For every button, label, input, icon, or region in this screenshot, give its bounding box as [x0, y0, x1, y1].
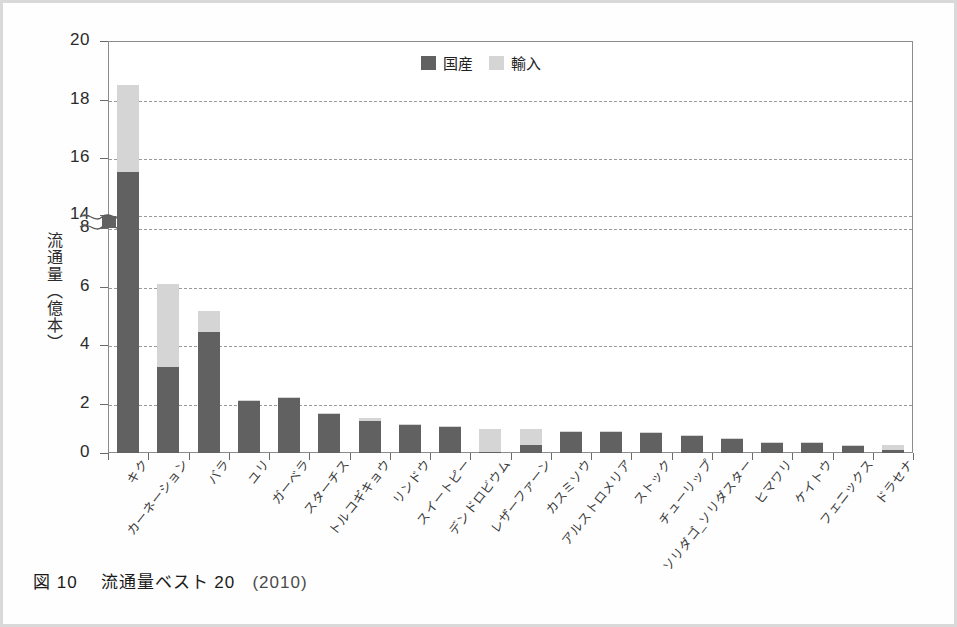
bar-デンドロビウム — [479, 429, 501, 453]
bar-segment-imported — [479, 429, 501, 452]
x-axis-label: キク — [121, 455, 152, 487]
bar-segment-domestic — [238, 401, 260, 453]
bar-ガーベラ — [278, 397, 300, 453]
y-tick-label-0: 0 — [46, 442, 90, 462]
y-tick-label-2: 2 — [46, 393, 90, 413]
bar-キク — [117, 85, 139, 454]
bar-フェニックス — [842, 445, 864, 453]
bar-チューリップ — [681, 436, 703, 453]
x-axis-label: ドラセナ — [870, 455, 917, 508]
bar-segment-imported — [117, 85, 139, 172]
bar-segment-imported — [520, 429, 542, 445]
bar-リンドウ — [399, 425, 421, 453]
bar-segment-domestic — [359, 421, 381, 453]
caption-number: 図 10 — [33, 573, 78, 592]
bar-segment-domestic — [439, 427, 461, 453]
bar-segment-domestic — [198, 332, 220, 453]
bars-layer — [108, 41, 913, 453]
bar-segment-domestic — [600, 432, 622, 453]
caption-year: (2010) — [252, 573, 307, 592]
bar-ケイトウ — [801, 443, 823, 453]
bar-カーネーション — [157, 284, 179, 453]
bar-segment-domestic — [278, 398, 300, 453]
bar-segment-domestic — [520, 445, 542, 453]
y-tick-label-16: 16 — [46, 147, 90, 167]
bar-segment-domestic — [761, 443, 783, 453]
bar-segment-domestic — [721, 439, 743, 453]
bar-segment-imported — [198, 311, 220, 332]
x-axis-label: ユリ — [242, 455, 273, 487]
bar-segment-imported — [157, 284, 179, 367]
y-tick-mark — [100, 345, 108, 346]
bar-スターチス — [318, 413, 340, 453]
bar-アルストロメリア — [600, 432, 622, 453]
bar-segment-domestic — [640, 433, 662, 453]
bar-ソリダゴ_ソリダスター — [721, 439, 743, 453]
bar-バラ — [198, 311, 220, 453]
y-tick-label-18: 18 — [46, 89, 90, 109]
y-tick-mark — [100, 100, 108, 101]
bar-segment-domestic — [318, 414, 340, 453]
x-axis-labels: キクカーネーションバラユリガーベラスターチストルコギキョウリンドウスイートピーデ… — [108, 455, 938, 575]
y-axis-title: 流通量（億本） — [36, 232, 62, 351]
caption-title: 流通量ベスト 20 — [101, 573, 236, 592]
bar-segment-domestic — [801, 443, 823, 453]
y-tick-mark — [100, 41, 108, 42]
bar-ドラセナ — [882, 445, 904, 453]
bar-スイートピー — [439, 427, 461, 453]
y-tick-mark — [100, 158, 108, 159]
figure-chart: 20 18 16 14 8 6 4 2 0 流通量（億本） 国産 輸入 キクカー… — [0, 0, 957, 627]
y-tick-mark — [100, 453, 108, 454]
bar-ユリ — [238, 400, 260, 453]
y-tick-label-20: 20 — [46, 30, 90, 50]
bar-segment-domestic — [117, 172, 139, 454]
bar-segment-domestic — [842, 446, 864, 453]
bar-レザーファーン — [520, 429, 542, 453]
bar-segment-domestic — [157, 367, 179, 453]
bar-ヒマワリ — [761, 443, 783, 453]
bar-segment-domestic — [681, 436, 703, 453]
bar-ストック — [640, 433, 662, 453]
bar-トルコギキョウ — [359, 418, 381, 453]
x-axis-label: ヒマワリ — [749, 455, 796, 508]
y-tick-mark — [100, 404, 108, 405]
figure-caption: 図 10 流通量ベスト 20 (2010) — [33, 568, 308, 593]
x-axis-label: バラ — [202, 455, 233, 487]
bar-カスミソウ — [560, 431, 582, 453]
bar-segment-domestic — [560, 432, 582, 453]
bar-segment-domestic — [399, 425, 421, 453]
y-tick-mark — [100, 287, 108, 288]
